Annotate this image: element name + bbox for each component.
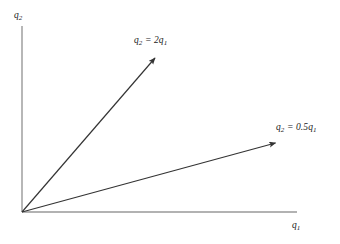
y-axis-label-subscript: 2 xyxy=(19,14,23,22)
steep-ray-label: q2 = 2q1 xyxy=(134,36,167,46)
steep-label-lhs-subscript: 2 xyxy=(139,39,143,47)
shallow-label-operator: = xyxy=(284,122,295,132)
steep-label-operator: = xyxy=(142,35,153,45)
steep-label-rhs: q xyxy=(159,35,164,45)
shallow-label-coefficient: 0.5 xyxy=(296,122,308,132)
y-axis-label: q2 xyxy=(14,11,22,21)
steep-ray-arrow xyxy=(22,58,155,212)
shallow-ray-label: q2 = 0.5q1 xyxy=(276,123,317,133)
x-axis-label-subscript: 1 xyxy=(297,224,301,232)
steep-label-rhs-subscript: 1 xyxy=(164,39,168,47)
shallow-ray-arrow xyxy=(22,143,276,212)
shallow-label-lhs-subscript: 2 xyxy=(281,126,285,134)
ray-diagram-figure: q2 q1 q2 = 2q1 q2 = 0.5q1 xyxy=(0,0,340,244)
x-axis-label: q1 xyxy=(292,221,300,231)
shallow-label-rhs-subscript: 1 xyxy=(313,126,317,134)
